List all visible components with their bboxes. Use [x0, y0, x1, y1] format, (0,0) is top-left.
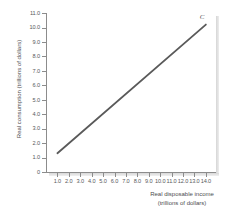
x-tick-mark [137, 173, 138, 177]
x-tick-mark [103, 173, 104, 177]
y-tick-mark [42, 85, 46, 86]
x-tick-mark [149, 173, 150, 177]
cropped-caption [8, 0, 244, 5]
y-tick-mark [42, 114, 46, 115]
x-tick-mark [160, 173, 161, 177]
y-tick-mark [42, 42, 46, 43]
x-tick-label: 14.0 [196, 178, 216, 184]
x-axis-title: Real disposable income (trillions of dol… [118, 190, 246, 207]
x-tick-mark [80, 173, 81, 177]
y-axis-title: Real consumption (trillions of dollars) [16, 14, 22, 164]
data-line-svg [46, 13, 215, 172]
x-tick-mark [92, 173, 93, 177]
x-tick-mark [194, 173, 195, 177]
y-tick-mark [42, 172, 46, 173]
x-tick-mark [126, 173, 127, 177]
x-tick-mark [206, 173, 207, 177]
x-tick-mark [183, 173, 184, 177]
x-tick-mark [57, 173, 58, 177]
consumption-line [57, 25, 205, 154]
x-tick-mark [172, 173, 173, 177]
x-tick-mark [115, 173, 116, 177]
y-tick-mark [42, 100, 46, 101]
consumption-function-chart: 01.02.03.04.05.06.07.08.09.010.011.0 1.0… [0, 0, 250, 212]
y-axis-spine [46, 13, 47, 173]
y-tick-mark [42, 143, 46, 144]
y-tick-mark [42, 158, 46, 159]
plot-shadow-right [216, 16, 219, 174]
y-tick-mark [42, 56, 46, 57]
y-tick-mark [42, 71, 46, 72]
x-axis-title-line2: (trillions of dollars) [118, 199, 246, 208]
x-axis-title-line1: Real disposable income [118, 190, 246, 199]
y-tick-mark [42, 13, 46, 14]
y-tick-label: 0 [18, 169, 40, 175]
series-label-c: C [200, 13, 205, 21]
x-axis-spine [46, 172, 216, 173]
y-tick-mark [42, 129, 46, 130]
y-tick-mark [42, 28, 46, 29]
x-tick-mark [69, 173, 70, 177]
plot-area [46, 13, 215, 172]
